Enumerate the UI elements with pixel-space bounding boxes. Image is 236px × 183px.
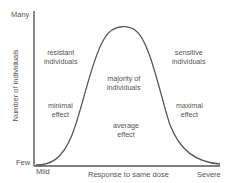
label-line: individuals xyxy=(172,58,206,67)
y-tick-many: Many xyxy=(11,10,29,19)
x-axis-title: Response to same dose xyxy=(88,170,169,179)
y-axis-title: Number of individuals xyxy=(11,58,20,122)
label-maximal-effect: maximal effect xyxy=(176,102,203,119)
label-average-effect: average effect xyxy=(113,122,139,139)
label-minimal-effect: minimal effect xyxy=(48,102,73,119)
x-tick-mild: Mild xyxy=(36,167,50,176)
label-resistant-individuals: resistant individuals xyxy=(44,49,78,66)
label-line: individuals xyxy=(107,84,141,93)
label-line: effect xyxy=(113,131,139,140)
label-line: individuals xyxy=(44,58,78,67)
x-tick-severe: Severe xyxy=(197,170,221,179)
label-majority-of-individuals: majority of individuals xyxy=(107,75,141,92)
label-line: effect xyxy=(48,111,73,120)
label-sensitive-individuals: sensitive individuals xyxy=(172,49,206,66)
label-line: effect xyxy=(176,111,203,120)
y-tick-few: Few xyxy=(16,158,30,167)
